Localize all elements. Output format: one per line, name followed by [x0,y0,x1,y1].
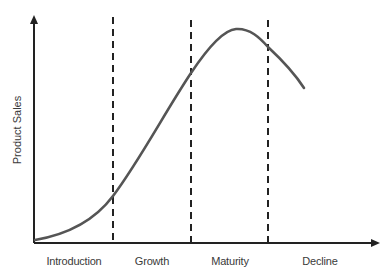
stage-label-introduction: Introduction [46,255,101,267]
x-axis-arrow-icon [371,239,380,247]
sales-curve [35,29,304,240]
stage-label-decline: Decline [302,255,337,267]
y-axis-label: Product Sales [11,96,23,164]
stage-label-maturity: Maturity [211,255,249,267]
product-life-cycle-chart [0,0,391,279]
stage-label-growth: Growth [135,255,169,267]
y-axis-arrow-icon [30,15,38,24]
